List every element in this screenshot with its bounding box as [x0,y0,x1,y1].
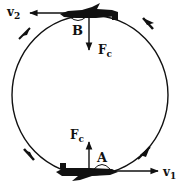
label-point-a: A [97,151,107,164]
label-v1-sub: 1 [170,171,176,181]
direction-arrow-bottom-right [138,147,150,159]
label-fc-top-base: F [98,43,107,57]
label-point-b: B [72,24,83,37]
label-fc-bottom-base: F [70,128,79,142]
airplane-bottom-icon [56,163,118,181]
direction-arrow-top-left [19,28,30,39]
label-v2-base: v [7,5,14,19]
direction-arrow-top-right [143,18,154,29]
vertical-loop-diagram [0,0,182,187]
label-fc-top: Fc [98,44,112,56]
label-fc-bottom: Fc [70,129,84,141]
label-v1: v1 [163,166,176,178]
label-fc-bottom-sub: c [79,134,84,144]
label-fc-top-sub: c [107,49,112,59]
label-v1-base: v [163,165,170,179]
direction-arrow-bottom-left [24,149,34,160]
label-v2-sub: 2 [14,11,20,21]
label-v2: v2 [7,6,20,18]
